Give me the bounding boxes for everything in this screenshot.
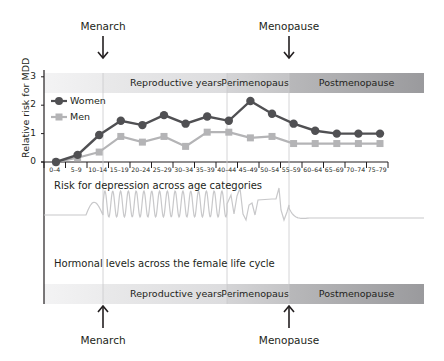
menopause-label-bottom: Menopause [259, 334, 319, 346]
women-data-point [225, 117, 233, 125]
men-data-point [204, 129, 211, 136]
men-series-line [56, 132, 380, 162]
hormonal-caption: Hormonal levels across the female life c… [54, 258, 275, 269]
women-data-point [354, 129, 362, 137]
women-data-point [138, 121, 146, 129]
women-data-point [117, 117, 125, 125]
men-data-point [161, 133, 168, 140]
men-data-point [182, 143, 189, 150]
men-data-point [96, 149, 103, 156]
women-data-point [333, 129, 341, 137]
risk-caption: Risk for depression across age categorie… [54, 180, 262, 191]
women-data-point [246, 97, 254, 105]
x-tick-label: 0–4 [44, 166, 66, 173]
x-tick-label: 10–14 [87, 166, 109, 173]
men-data-point [225, 129, 232, 136]
legend-men-marker [56, 114, 63, 121]
x-tick-label: 55–59 [281, 166, 303, 173]
x-tick-label: 40–44 [216, 166, 238, 173]
legend-men-label: Men [70, 111, 90, 122]
women-data-point [289, 119, 297, 127]
women-data-point [52, 158, 60, 166]
x-tick-label: 45–49 [238, 166, 260, 173]
women-data-point [95, 131, 103, 139]
women-data-point [268, 110, 276, 118]
men-data-point [355, 140, 362, 147]
women-data-point [376, 129, 384, 137]
x-tick-label: 50–54 [259, 166, 281, 173]
x-tick-label: 20–24 [130, 166, 152, 173]
women-data-point [73, 151, 81, 159]
women-data-point [203, 112, 211, 120]
men-data-point [269, 133, 276, 140]
x-tick-label: 60–64 [302, 166, 324, 173]
x-tick-label: 15–19 [109, 166, 131, 173]
women-data-point [311, 127, 319, 135]
x-tick-label: 35–39 [195, 166, 217, 173]
men-data-point [117, 133, 124, 140]
men-data-point [139, 139, 146, 146]
x-tick-label: 70–74 [345, 166, 367, 173]
x-tick-label: 5–9 [66, 166, 88, 173]
women-data-point [181, 119, 189, 127]
x-tick-label: 65–69 [324, 166, 346, 173]
hormone-level-curve [44, 188, 424, 220]
women-data-point [160, 111, 168, 119]
men-data-point [312, 140, 319, 147]
men-data-point [247, 134, 254, 141]
legend-women-marker [55, 97, 63, 105]
x-tick-label: 25–29 [152, 166, 174, 173]
menarch-label-bottom: Menarch [80, 334, 125, 346]
x-tick-label: 30–34 [173, 166, 195, 173]
legend-women-label: Women [70, 95, 106, 106]
x-tick-label: 75–79 [367, 166, 389, 173]
men-data-point [333, 140, 340, 147]
men-data-point [290, 140, 297, 147]
men-data-point [377, 140, 384, 147]
